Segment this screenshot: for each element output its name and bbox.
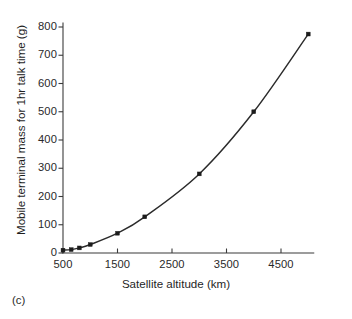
x-axis-title: Satellite altitude (km): [0, 277, 352, 290]
x-tick-label: 1500: [93, 258, 143, 270]
figure-caption: (c): [12, 294, 25, 306]
x-tick-label: 4500: [256, 258, 306, 270]
chart-series: [61, 32, 310, 252]
y-axis-title: Mobile terminal mass for 1hr talk time (…: [14, 25, 27, 235]
x-tick-label: 3500: [202, 258, 252, 270]
x-tick-label: 500: [38, 258, 88, 270]
figure-panel: 0100200300400500600700800 50015002500350…: [0, 0, 352, 319]
y-axis-title-wrapper: Mobile terminal mass for 1hr talk time (…: [10, 0, 30, 260]
chart-axes: [59, 23, 314, 253]
x-tick-label: 2500: [147, 258, 197, 270]
